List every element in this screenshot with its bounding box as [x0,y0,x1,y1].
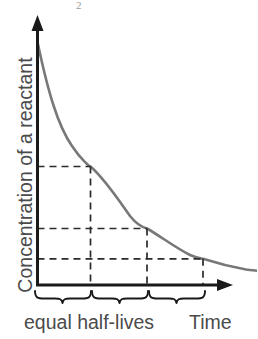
brace-3 [149,291,205,303]
brace-2 [92,291,148,303]
corner-number: 2 [76,0,82,11]
half-life-decay-chart: 2 Concentration of a reactant equal half… [0,0,257,339]
x-axis-arrow-icon [217,279,233,291]
y-axis-arrow-icon [32,15,44,31]
x-axis-label: Time [189,311,232,333]
decay-curve [38,42,258,271]
half-life-construction-lines [38,167,204,286]
decay-curve-group [38,42,258,271]
equal-half-life-braces [35,291,205,303]
chart-canvas [0,0,257,339]
brace-group-label: equal half-lives [24,311,154,333]
y-axis-label: Concentration of a reactant [15,45,35,305]
brace-1 [35,291,91,303]
axes-group [32,15,234,291]
